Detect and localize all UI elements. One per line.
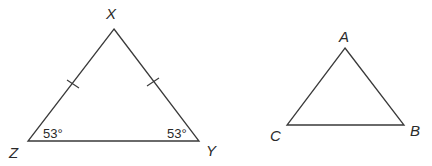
tick-mark-side-xy [147, 78, 159, 86]
triangle-abc-outline [287, 48, 404, 125]
vertex-label-c: C [270, 127, 281, 144]
vertex-label-a: A [338, 28, 349, 45]
triangle-xyz-outline [28, 29, 199, 141]
angle-label-z: 53° [43, 126, 63, 141]
vertex-label-z: Z [8, 144, 19, 161]
vertex-label-x: X [105, 5, 117, 22]
angle-label-y: 53° [167, 126, 187, 141]
geometry-diagram: X Z Y 53° 53° A C B [0, 0, 432, 166]
triangle-xyz: X Z Y 53° 53° [8, 5, 217, 161]
triangle-abc: A C B [270, 28, 420, 144]
vertex-label-b: B [410, 122, 420, 139]
vertex-label-y: Y [206, 142, 217, 159]
